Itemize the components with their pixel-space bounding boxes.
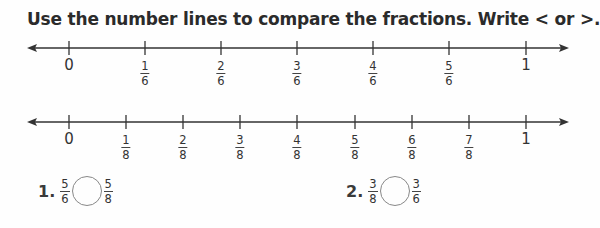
- tick-label-0: 0: [64, 130, 74, 148]
- tick-label-2-6: 26: [216, 58, 225, 87]
- tick-label-1-8: 18: [121, 132, 130, 161]
- tick-label-6-8: 68: [407, 132, 416, 161]
- answer-circle[interactable]: [72, 176, 102, 206]
- right-fraction: 36: [412, 178, 421, 205]
- left-fraction: 38: [368, 178, 377, 205]
- problem-number: 2.: [346, 182, 363, 201]
- tick-label-1: 1: [521, 56, 531, 74]
- answer-circle[interactable]: [380, 176, 410, 206]
- tick-label-7-8: 78: [464, 132, 473, 161]
- tick-label-4-8: 48: [292, 132, 301, 161]
- left-fraction: 56: [60, 178, 69, 205]
- number-line-eighths: 0 18 28 38 48 58 68 78 1: [0, 110, 596, 170]
- tick-label-3-6: 36: [292, 58, 301, 87]
- instruction-heading: Use the number lines to compare the frac…: [27, 9, 600, 29]
- tick-label-5-6: 56: [444, 58, 453, 87]
- number-line-sixths: 0 16 26 36 46 56 1: [0, 36, 596, 96]
- right-fraction: 58: [104, 178, 113, 205]
- tick-label-2-8: 28: [178, 132, 187, 161]
- problem-2: 2. 38 36: [346, 176, 421, 206]
- tick-label-1: 1: [521, 130, 531, 148]
- tick-label-4-6: 46: [368, 58, 377, 87]
- problem-number: 1.: [38, 182, 55, 201]
- tick-label-0: 0: [64, 56, 74, 74]
- problem-1: 1. 56 58: [38, 176, 113, 206]
- tick-label-1-6: 16: [140, 58, 149, 87]
- tick-label-3-8: 38: [235, 132, 244, 161]
- tick-label-5-8: 58: [350, 132, 359, 161]
- number-line-eighths-axis: [0, 110, 596, 134]
- number-line-sixths-axis: [0, 36, 596, 60]
